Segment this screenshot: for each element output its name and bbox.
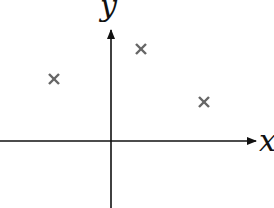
cross-marker-2 [136,44,146,54]
y-axis-label: y [98,0,118,23]
cross-marker-1 [49,74,59,84]
x-axis-label: x [259,123,274,158]
cross-marker-3 [199,97,209,107]
coordinate-plane: x y [0,0,274,208]
